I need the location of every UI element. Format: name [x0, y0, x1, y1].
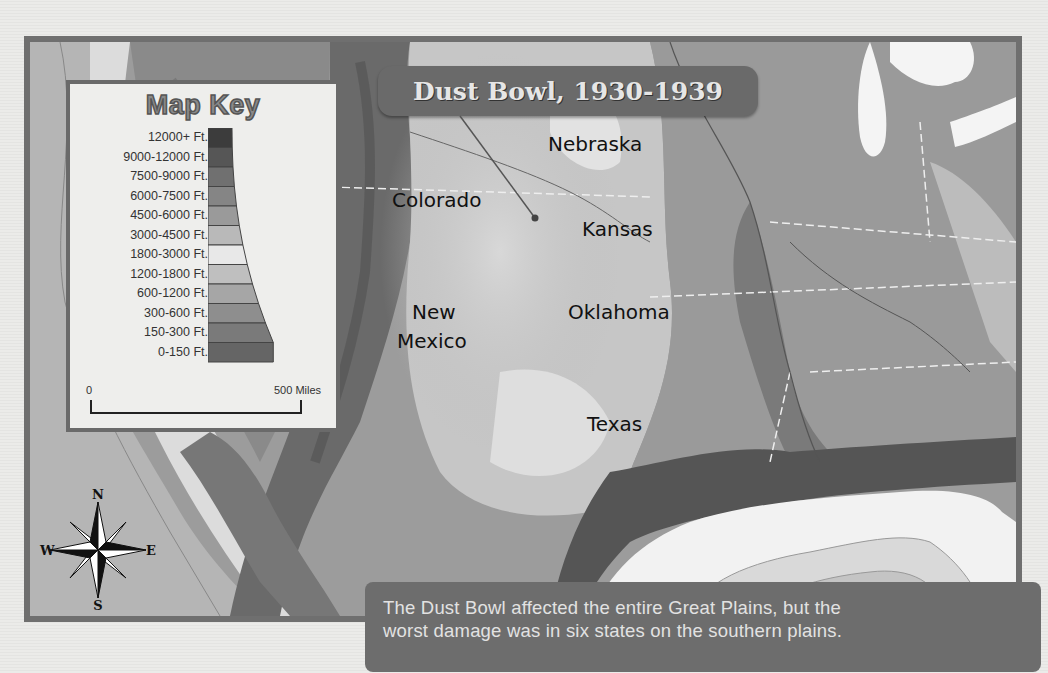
state-label-oklahoma: Oklahoma [568, 300, 670, 324]
legend-swatch-band [208, 245, 247, 265]
legend-swatch-band [208, 206, 239, 226]
legend-swatch-band [208, 167, 234, 187]
map-key-labels: 12000+ Ft. 9000-12000 Ft. 7500-9000 Ft. … [70, 128, 208, 362]
legend-swatch-band [208, 226, 243, 246]
state-label-new-mexico-line2: Mexico [397, 329, 467, 353]
map-caption: The Dust Bowl affected the entire Great … [365, 582, 1041, 672]
map-key: Map Key 12000+ Ft. 9000-12000 Ft. 7500-9… [66, 80, 340, 432]
legend-label: 12000+ Ft. [70, 128, 208, 148]
legend-label: 1800-3000 Ft. [70, 245, 208, 265]
legend-swatch-band [208, 148, 233, 168]
compass-rose-icon: N S W E [36, 488, 160, 612]
scale-start-label: 0 [86, 384, 92, 396]
map-title-banner: Dust Bowl, 1930-1939 [378, 66, 758, 116]
legend-swatch-band [208, 128, 232, 148]
state-label-texas: Texas [587, 412, 642, 436]
compass-e: E [146, 543, 156, 558]
legend-label: 9000-12000 Ft. [70, 148, 208, 168]
compass-s: S [93, 598, 102, 612]
legend-label: 7500-9000 Ft. [70, 167, 208, 187]
elevation-swatch [208, 128, 288, 364]
legend-label: 1200-1800 Ft. [70, 265, 208, 285]
legend-label: 300-600 Ft. [70, 304, 208, 324]
legend-swatch-band [208, 284, 259, 304]
state-label-new-mexico-line1: New [412, 300, 456, 324]
map-title: Dust Bowl, 1930-1939 [413, 77, 723, 106]
scale-bar [90, 400, 302, 414]
scale-end-label: 500 Miles [274, 384, 321, 396]
state-label-nebraska: Nebraska [548, 132, 642, 156]
compass-n: N [92, 488, 104, 502]
legend-label: 150-300 Ft. [70, 323, 208, 343]
legend-swatch-band [208, 323, 273, 343]
legend-swatch-band [208, 304, 265, 324]
legend-label: 0-150 Ft. [70, 343, 208, 363]
map-key-title: Map Key [70, 90, 336, 121]
state-label-kansas: Kansas [582, 217, 653, 241]
caption-line-2: worst damage was in six states on the so… [383, 619, 1031, 642]
legend-swatch-band [208, 343, 273, 363]
legend-swatch-band [208, 187, 236, 207]
legend-label: 6000-7500 Ft. [70, 187, 208, 207]
legend-label: 600-1200 Ft. [70, 284, 208, 304]
state-label-colorado: Colorado [392, 188, 481, 212]
legend-swatch-band [208, 265, 252, 285]
legend-label: 3000-4500 Ft. [70, 226, 208, 246]
caption-line-1: The Dust Bowl affected the entire Great … [383, 596, 1031, 619]
legend-label: 4500-6000 Ft. [70, 206, 208, 226]
